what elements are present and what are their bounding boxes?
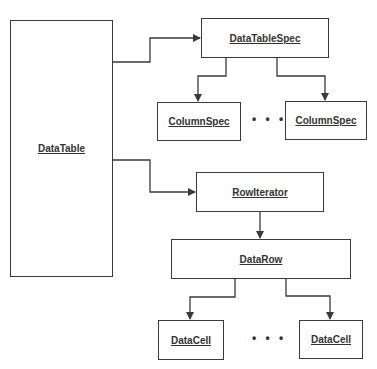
- node-datarow: DataRow: [171, 239, 351, 279]
- edge-datatable-to-spec: [112, 38, 200, 62]
- edge-spec-to-columnspec-2: [277, 57, 325, 100]
- node-columnspec-first: ColumnSpec: [157, 102, 241, 141]
- node-label: ColumnSpec: [168, 116, 229, 127]
- node-rowiterator: RowIterator: [196, 172, 324, 212]
- node-label: ColumnSpec: [295, 115, 356, 126]
- node-label: DataTableSpec: [230, 33, 301, 44]
- node-columnspec-last: ColumnSpec: [285, 101, 367, 140]
- node-datatable: DataTable: [10, 20, 113, 277]
- node-label: DataCell: [171, 335, 211, 346]
- edge-spec-to-columnspec-1: [198, 57, 226, 101]
- edge-datatable-to-rowiterator: [112, 160, 195, 192]
- node-label: DataCell: [311, 334, 351, 345]
- edge-datarow-to-datacell-1: [190, 278, 235, 319]
- node-datacell-first: DataCell: [158, 320, 224, 360]
- node-label: RowIterator: [232, 187, 288, 198]
- ellipsis-columnspecs: • • •: [252, 112, 286, 126]
- node-datatablespec: DataTableSpec: [201, 18, 329, 58]
- node-label: DataRow: [240, 254, 283, 265]
- node-datacell-last: DataCell: [299, 320, 363, 359]
- node-label: DataTable: [38, 143, 85, 154]
- edge-datarow-to-datacell-2: [286, 278, 330, 319]
- ellipsis-datacells: • • •: [252, 331, 286, 345]
